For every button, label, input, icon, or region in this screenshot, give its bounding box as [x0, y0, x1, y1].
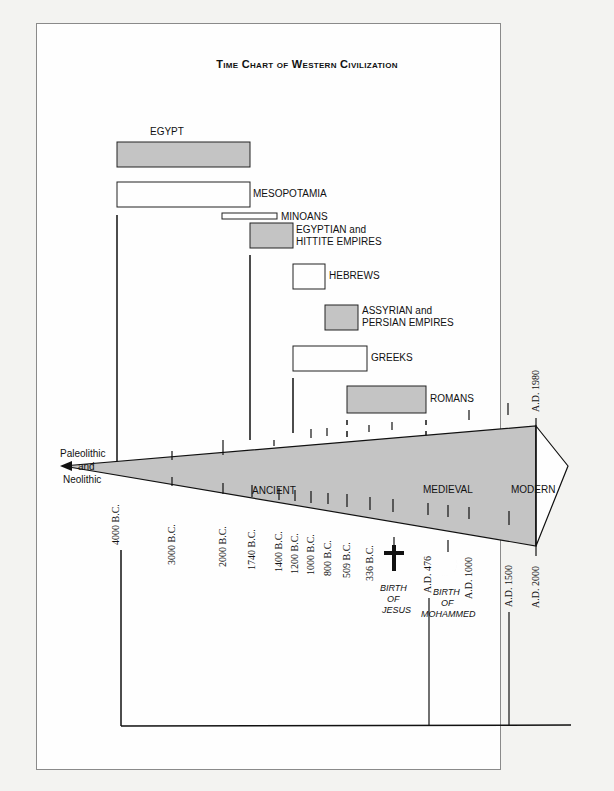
date-1400bc: 1400 B.C.: [273, 531, 284, 572]
date-4000bc: 4000 B.C.: [110, 504, 121, 545]
label-egyptian-hittite-1: EGYPTIAN and: [296, 224, 366, 235]
label-egypt: EGYPT: [150, 126, 184, 137]
timeline-diagram: EGYPT MESOPOTAMIA MINOANS EGYPTIAN and H…: [0, 0, 614, 791]
date-336bc: 336 B.C.: [364, 545, 375, 581]
date-3000bc: 3000 B.C.: [166, 524, 177, 565]
bar-romans: [347, 386, 426, 413]
bar-egyptian-hittite: [250, 223, 293, 248]
date-2000bc: 2000 B.C.: [217, 526, 228, 567]
cross-icon: [384, 537, 404, 571]
date-1000bc: 1000 B.C.: [305, 534, 316, 575]
label-hebrews: HEBREWS: [329, 270, 380, 281]
bar-hebrews: [293, 264, 325, 289]
bar-egypt: [117, 142, 250, 167]
bar-greeks: [293, 346, 367, 371]
date-ad476: A.D. 476: [422, 556, 433, 593]
bar-minoans: [222, 213, 277, 219]
bar-assyrian-persian: [325, 305, 358, 330]
date-1740bc: 1740 B.C.: [246, 529, 257, 570]
label-mesopotamia: MESOPOTAMIA: [253, 188, 327, 199]
era-medieval: MEDIEVAL: [423, 484, 473, 495]
era-prehistoric-2: and: [78, 461, 95, 472]
date-ad1980: A.D. 1980: [530, 370, 541, 412]
label-greeks: GREEKS: [371, 352, 413, 363]
label-assyrian-persian-2: PERSIAN EMPIRES: [362, 317, 454, 328]
date-1200bc: 1200 B.C.: [289, 533, 300, 574]
bar-mesopotamia: [117, 182, 250, 207]
event-mohammed-2: OF: [441, 598, 454, 608]
era-prehistoric-1: Paleolithic: [60, 448, 106, 459]
era-modern: MODERN: [511, 484, 555, 495]
label-minoans: MINOANS: [281, 211, 328, 222]
date-ad1500: A.D. 1500: [503, 565, 514, 607]
date-800bc: 800 B.C.: [322, 540, 333, 576]
event-mohammed-1: BIRTH: [433, 587, 460, 597]
era-ancient: ANCIENT: [252, 485, 296, 496]
event-jesus-1: BIRTH: [380, 583, 407, 593]
era-prehistoric-3: Neolithic: [63, 474, 101, 485]
date-ad1000: A.D. 1000: [463, 557, 474, 599]
date-509bc: 509 B.C.: [341, 542, 352, 578]
event-jesus-2: OF: [387, 594, 400, 604]
event-jesus-3: JESUS: [381, 605, 411, 615]
crescent-icon: [437, 540, 457, 576]
label-romans: ROMANS: [430, 393, 474, 404]
label-assyrian-persian-1: ASSYRIAN and: [362, 305, 432, 316]
label-egyptian-hittite-2: HITTITE EMPIRES: [296, 236, 382, 247]
date-ad2000: A.D. 2000: [530, 566, 541, 608]
